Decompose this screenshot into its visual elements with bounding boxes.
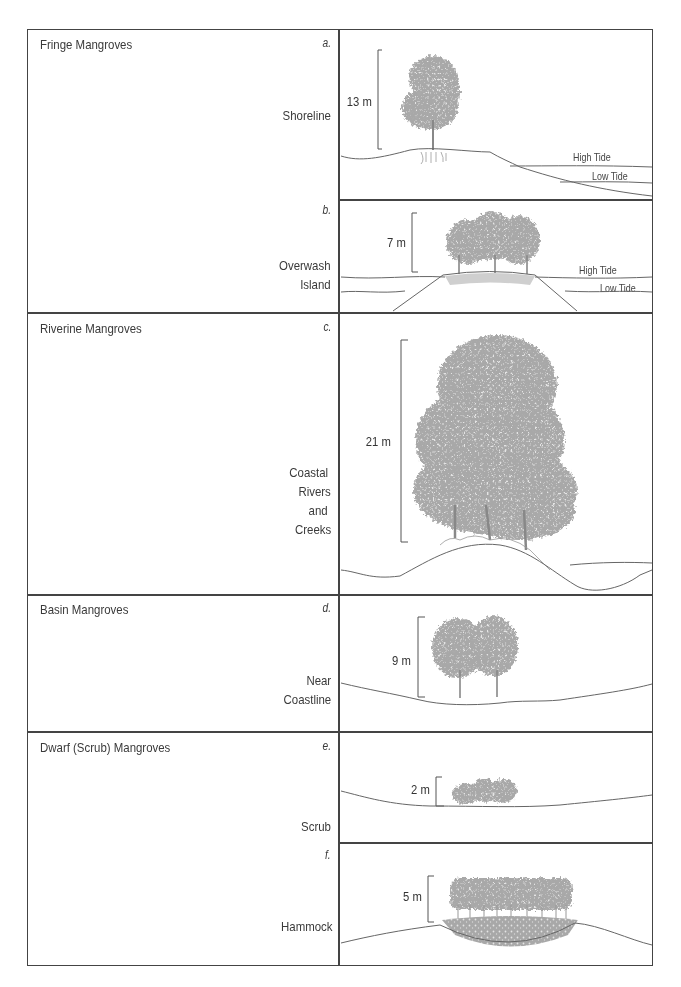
panel-letter-f: f. bbox=[325, 848, 331, 862]
category-title-fringe: Fringe Mangroves bbox=[40, 37, 132, 52]
setting-label-island: Island bbox=[300, 277, 331, 292]
tide-label-high-a: High Tide bbox=[573, 151, 611, 163]
row-divider-riverine-basin bbox=[27, 594, 653, 596]
row-divider-basin-dwarf bbox=[27, 731, 653, 733]
tide-label-low-b: Low Tide bbox=[600, 282, 636, 294]
height-label-f: 5 m bbox=[403, 890, 422, 904]
height-label-b: 7 m bbox=[387, 236, 406, 250]
height-label-c: 21 m bbox=[366, 435, 391, 449]
panel-letter-a: a. bbox=[322, 36, 331, 50]
setting-label-coastline: Coastline bbox=[283, 692, 331, 707]
row-divider-fringe-riverine bbox=[27, 312, 653, 314]
panel-letter-b: b. bbox=[322, 203, 331, 217]
setting-label-shoreline: Shoreline bbox=[283, 108, 331, 123]
category-title-dwarf: Dwarf (Scrub) Mangroves bbox=[40, 740, 170, 755]
panel-letter-d: d. bbox=[322, 601, 331, 615]
height-label-a: 13 m bbox=[347, 95, 372, 109]
category-title-basin: Basin Mangroves bbox=[40, 602, 128, 617]
setting-label-and: and bbox=[309, 503, 328, 518]
setting-label-hammock: Hammock bbox=[282, 919, 333, 934]
setting-label-near: Near bbox=[306, 673, 331, 688]
tide-label-high-b: High Tide bbox=[579, 264, 617, 276]
figure-frame bbox=[27, 29, 653, 966]
panel-letter-c: c. bbox=[323, 320, 331, 334]
tide-label-low-a: Low Tide bbox=[592, 170, 628, 182]
setting-label-coastal: Coastal bbox=[289, 465, 328, 480]
setting-label-creeks: Creeks bbox=[295, 522, 331, 537]
column-divider bbox=[338, 29, 340, 966]
setting-label-overwash: Overwash bbox=[279, 258, 331, 273]
height-label-d: 9 m bbox=[392, 654, 411, 668]
panel-divider-e-f bbox=[338, 842, 653, 844]
panel-divider-a-b bbox=[338, 199, 653, 201]
setting-label-rivers: Rivers bbox=[299, 484, 331, 499]
panel-letter-e: e. bbox=[322, 739, 331, 753]
setting-label-scrub: Scrub bbox=[301, 819, 331, 834]
height-label-e: 2 m bbox=[411, 783, 430, 797]
category-title-riverine: Riverine Mangroves bbox=[40, 321, 142, 336]
